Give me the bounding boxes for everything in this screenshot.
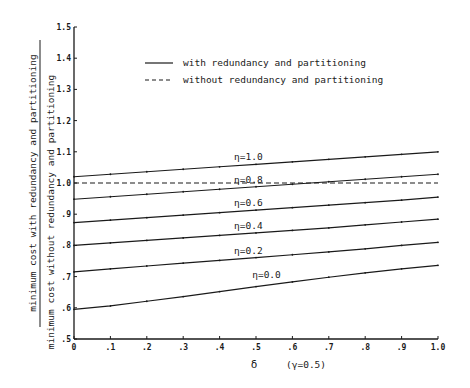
y-tick-label: 1.1 (57, 148, 72, 157)
data-point (182, 237, 184, 239)
y-tick-label: 1.0 (57, 179, 72, 188)
data-point (110, 173, 112, 175)
data-point (255, 163, 257, 165)
data-point (364, 156, 366, 158)
data-point (328, 251, 330, 253)
data-point (146, 240, 148, 242)
y-tick-label: .6 (61, 304, 71, 313)
y-axis-title-denominator: minimum cost without redundancy and part… (45, 75, 56, 350)
data-point (146, 265, 148, 267)
data-point (437, 196, 439, 198)
data-point (73, 245, 75, 247)
data-point (364, 202, 366, 204)
x-tick-label: .1 (106, 343, 116, 352)
data-point (73, 176, 75, 178)
y-tick-label: 1.5 (57, 23, 72, 32)
y-axis-title-numerator: minimum cost with redundancy and partiti… (27, 54, 38, 311)
x-axis-note: (γ=0.5) (286, 359, 326, 370)
chart-canvas: .5.6.7.8.91.01.11.21.31.41.50.1.2.3.4.5.… (0, 0, 470, 388)
data-point (110, 242, 112, 244)
data-point (401, 245, 403, 247)
data-point (328, 181, 330, 183)
data-point (292, 281, 294, 283)
x-tick-label: .9 (397, 343, 407, 352)
x-axis-title: δ (251, 358, 258, 371)
data-point (182, 214, 184, 216)
data-point (292, 254, 294, 256)
curve-label: η=0.2 (234, 245, 263, 256)
data-point (146, 217, 148, 219)
x-tick-label: .8 (360, 343, 370, 352)
curve-label: η=1.0 (234, 151, 263, 162)
legend-label-with: with redundancy and partitioning (183, 57, 366, 68)
data-point (364, 272, 366, 274)
x-tick-label: 0 (72, 343, 77, 352)
data-point (364, 248, 366, 250)
y-tick-label: 1.4 (57, 54, 72, 63)
curve-label: η=0.4 (234, 220, 263, 231)
data-point (110, 305, 112, 307)
data-point (328, 276, 330, 278)
data-point (219, 212, 221, 214)
data-point (219, 166, 221, 168)
y-tick-label: .7 (61, 273, 71, 282)
data-point (110, 268, 112, 270)
data-point (328, 227, 330, 229)
data-point (146, 171, 148, 173)
data-point (219, 235, 221, 237)
data-point (182, 262, 184, 264)
data-point (292, 207, 294, 209)
data-point (182, 191, 184, 193)
x-tick-label: .7 (324, 343, 334, 352)
data-point (73, 271, 75, 273)
x-tick-label: .3 (178, 343, 188, 352)
data-point (292, 183, 294, 185)
data-point (364, 178, 366, 180)
data-point (292, 161, 294, 163)
data-point (255, 209, 257, 211)
x-tick-label: 1.0 (431, 343, 446, 352)
data-point (437, 173, 439, 175)
x-tick-label: .5 (251, 343, 261, 352)
curve-label: η=0.0 (252, 269, 281, 280)
data-point (255, 186, 257, 188)
x-tick-label: .2 (142, 343, 152, 352)
series-layer: η=1.0η=0.8η=0.6η=0.4η=0.2η=0.0 (73, 151, 439, 310)
data-point (437, 264, 439, 266)
data-point (364, 224, 366, 226)
data-point (401, 153, 403, 155)
x-axis-title: δ (γ=0.5) (251, 358, 326, 371)
data-point (146, 300, 148, 302)
data-point (219, 259, 221, 261)
legend-label-without: without redundancy and partitioning (183, 74, 383, 85)
data-point (146, 193, 148, 195)
x-tick-label: .4 (215, 343, 225, 352)
curve-label: η=0.6 (234, 197, 263, 208)
data-point (401, 268, 403, 270)
data-point (219, 188, 221, 190)
data-point (110, 219, 112, 221)
data-point (401, 199, 403, 201)
y-tick-label: 1.3 (57, 85, 72, 94)
y-axis-title: minimum cost with redundancy and partiti… (27, 40, 56, 349)
chart: .5.6.7.8.91.01.11.21.31.41.50.1.2.3.4.5.… (0, 0, 470, 388)
data-point (255, 232, 257, 234)
data-point (328, 204, 330, 206)
data-point (73, 308, 75, 310)
x-tick-label: .6 (288, 343, 298, 352)
legend: with redundancy and partitioning without… (145, 57, 383, 85)
data-point (255, 286, 257, 288)
data-point (292, 230, 294, 232)
y-tick-label: .9 (61, 210, 71, 219)
data-point (219, 291, 221, 293)
data-point (437, 218, 439, 220)
data-point (182, 168, 184, 170)
data-point (182, 296, 184, 298)
y-tick-label: .8 (61, 241, 71, 250)
data-point (401, 221, 403, 223)
data-point (328, 158, 330, 160)
data-point (401, 176, 403, 178)
data-point (437, 151, 439, 153)
data-point (437, 241, 439, 243)
y-tick-label: 1.2 (57, 117, 72, 126)
